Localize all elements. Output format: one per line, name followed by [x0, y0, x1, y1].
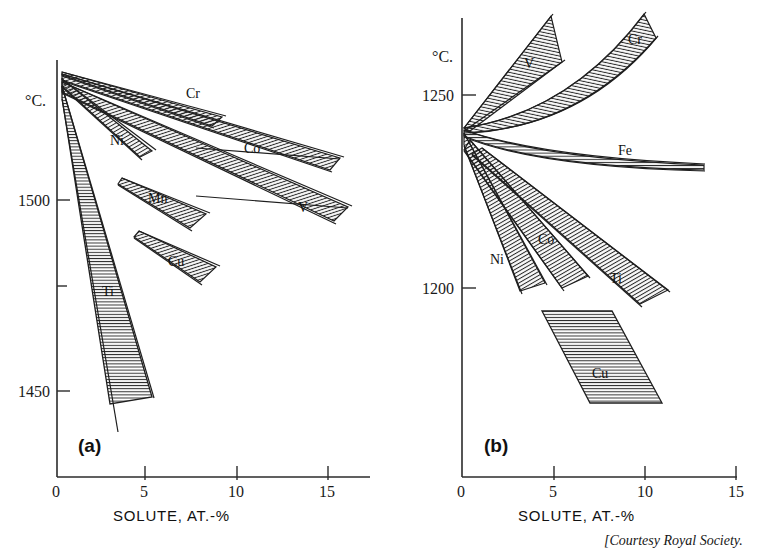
- panel-a-xlabel-10: 10: [228, 483, 244, 500]
- band-label-v-a: V: [298, 200, 308, 215]
- panel-b-ylabel-1200: 1200: [422, 280, 454, 297]
- panel-b-x-title: SOLUTE, AT.-%: [518, 507, 635, 524]
- panel-a-y-unit: °C.: [25, 92, 46, 109]
- panel-a-xlabel-15: 15: [319, 483, 335, 500]
- band-cr-panel-b: [464, 12, 658, 133]
- band-label-fe-b: Fe: [618, 143, 632, 158]
- band-label-mn-a: Mn: [148, 191, 167, 206]
- figure-container: Cr Co Ni V Mn: [0, 0, 762, 557]
- panel-b-y-unit: °C.: [432, 48, 453, 65]
- panel-b-xlabel-0: 0: [457, 483, 465, 500]
- band-label-ti-a: Ti: [102, 284, 114, 299]
- panel-a-xlabel-0: 0: [52, 483, 60, 500]
- band-label-cr-a: Cr: [186, 86, 200, 101]
- panel-a-xlabel-5: 5: [140, 483, 148, 500]
- band-label-ti-b: Ti: [610, 271, 622, 286]
- panel-b-ylabel-1250: 1250: [422, 87, 454, 104]
- panel-b-xlabel-15: 15: [728, 483, 744, 500]
- band-label-cu-b: Cu: [592, 366, 608, 381]
- panel-a-ylabel-1450: 1450: [18, 383, 50, 400]
- band-label-cr-b: Cr: [628, 32, 642, 47]
- band-label-ni-b: Ni: [490, 252, 504, 267]
- panel-b: V Cr Fe Ni Co: [422, 12, 744, 524]
- band-label-v-b: V: [524, 56, 534, 71]
- panel-a-label: (a): [78, 435, 101, 456]
- band-label-cu-a: Cu: [168, 254, 184, 269]
- panel-b-xlabel-5: 5: [549, 483, 557, 500]
- panel-b-xlabel-10: 10: [637, 483, 653, 500]
- figure-credit: [Courtesy Royal Society.: [604, 533, 743, 548]
- panel-a-x-title: SOLUTE, AT.-%: [113, 507, 230, 524]
- band-label-co-b: Co: [538, 232, 554, 247]
- panel-a: Cr Co Ni V Mn: [18, 60, 370, 524]
- band-label-co-a: Co: [244, 141, 260, 156]
- panel-a-ylabel-1500: 1500: [18, 192, 50, 209]
- band-label-ni-a: Ni: [110, 133, 124, 148]
- band-cu-panel-b: [542, 311, 662, 403]
- phase-diagram-svg: Cr Co Ni V Mn: [0, 0, 762, 557]
- panel-b-label: (b): [484, 435, 508, 456]
